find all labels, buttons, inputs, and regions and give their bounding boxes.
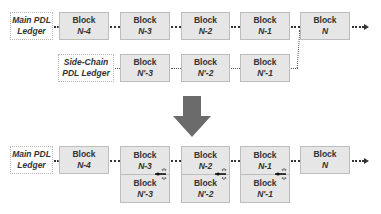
block-id: N-3 bbox=[138, 161, 152, 172]
block-id: N'-1 bbox=[257, 68, 273, 79]
arrow-right-icon bbox=[364, 24, 369, 30]
connector-dots bbox=[231, 26, 240, 28]
connector-dots bbox=[291, 160, 300, 162]
weld-icon bbox=[155, 168, 169, 180]
connector-dots bbox=[231, 160, 240, 162]
block-title: Block bbox=[313, 15, 336, 26]
block-id: N'-3 bbox=[137, 189, 153, 200]
block-title: Block bbox=[133, 57, 156, 68]
continuation-dots bbox=[352, 26, 364, 28]
block-title: Block bbox=[313, 149, 336, 160]
block-id: N-3 bbox=[138, 26, 152, 37]
block-id: N-4 bbox=[77, 160, 91, 171]
block-id: N-4 bbox=[77, 26, 91, 37]
block-n-prime-2: Block N'-2 bbox=[181, 54, 230, 82]
block-title: Block bbox=[72, 15, 95, 26]
arrow-right-icon bbox=[364, 158, 369, 164]
block-id: N bbox=[322, 26, 328, 37]
block-title: Block bbox=[194, 150, 217, 161]
continuation-dots bbox=[352, 160, 364, 162]
block-title: Block bbox=[72, 149, 95, 160]
block-title: Block bbox=[194, 15, 217, 26]
side-connector bbox=[171, 68, 181, 69]
block-n-prime-1: Block N'-1 bbox=[240, 54, 290, 82]
side-chain-ledger-label: Side-Chain PDL Ledger bbox=[58, 54, 114, 82]
main-ledger-line2: Ledger bbox=[17, 160, 45, 171]
block-n-3: Block N-3 bbox=[120, 12, 170, 40]
main-ledger-line1: Main PDL bbox=[12, 149, 51, 160]
block-id: N'-2 bbox=[198, 68, 214, 79]
block-title: Block bbox=[253, 15, 276, 26]
block-n-1: Block N-1 bbox=[240, 12, 290, 40]
connector-dots bbox=[291, 26, 300, 28]
block-title: Block bbox=[194, 57, 217, 68]
block-id: N-2 bbox=[199, 161, 213, 172]
block-id: N'-2 bbox=[198, 189, 214, 200]
side-to-main-connector-vertical bbox=[297, 30, 301, 68]
block-n-2: Block N-2 bbox=[181, 12, 230, 40]
main-ledger-line2: Ledger bbox=[17, 26, 45, 37]
main-ledger-label: Main PDL Ledger bbox=[10, 12, 53, 40]
block-title: Block bbox=[253, 57, 276, 68]
block-n-4: Block N-4 bbox=[59, 12, 109, 40]
weld-icon bbox=[215, 168, 229, 180]
main-ledger-line1: Main PDL bbox=[12, 15, 51, 26]
block-n-prime-3: Block N'-3 bbox=[120, 54, 170, 82]
block-id: N'-3 bbox=[137, 68, 153, 79]
side-connector bbox=[231, 68, 240, 69]
connector-dots bbox=[110, 160, 120, 162]
bottom-main-ledger-label: Main PDL Ledger bbox=[10, 146, 53, 174]
bottom-block-n: Block N bbox=[300, 146, 350, 174]
block-id: N-2 bbox=[199, 26, 213, 37]
block-title: Block bbox=[253, 150, 276, 161]
down-arrow-icon bbox=[172, 96, 212, 138]
side-ledger-line1: Side-Chain bbox=[64, 57, 108, 68]
block-id: N bbox=[322, 160, 328, 171]
block-n: Block N bbox=[300, 12, 350, 40]
bottom-block-n-4: Block N-4 bbox=[59, 146, 109, 174]
connector-dots bbox=[171, 26, 181, 28]
block-title: Block bbox=[133, 15, 156, 26]
block-title: Block bbox=[253, 178, 276, 189]
block-id: N'-1 bbox=[257, 189, 273, 200]
weld-icon bbox=[275, 168, 289, 180]
block-id: N-1 bbox=[258, 161, 272, 172]
connector-dots bbox=[171, 160, 181, 162]
side-to-main-connector bbox=[291, 68, 298, 69]
block-id: N-1 bbox=[258, 26, 272, 37]
block-title: Block bbox=[133, 150, 156, 161]
side-ledger-line2: PDL Ledger bbox=[62, 68, 110, 79]
block-title: Block bbox=[194, 178, 217, 189]
block-title: Block bbox=[133, 178, 156, 189]
connector-dots bbox=[110, 26, 120, 28]
